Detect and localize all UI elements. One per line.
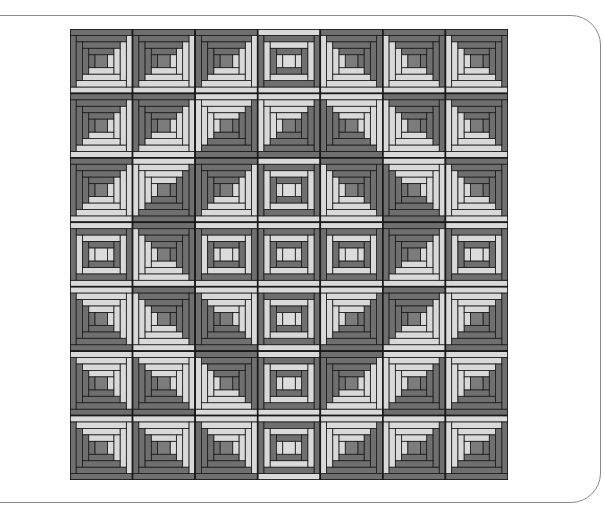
quilt-block (320, 351, 383, 415)
quilt-block (70, 158, 133, 222)
quilt-block (133, 222, 196, 286)
quilt-block (383, 222, 446, 286)
quilt-block (70, 93, 133, 157)
quilt-block (70, 351, 133, 415)
quilt-block (195, 416, 258, 480)
quilt-block (70, 29, 133, 93)
quilt-block (383, 93, 446, 157)
quilt-block (383, 351, 446, 415)
quilt-block (133, 29, 196, 93)
quilt-block (383, 416, 446, 480)
quilt-grid (70, 29, 508, 480)
quilt-block (383, 29, 446, 93)
quilt-block (195, 287, 258, 351)
quilt-block (70, 287, 133, 351)
quilt-block (133, 93, 196, 157)
quilt-block (70, 222, 133, 286)
quilt-block (445, 351, 508, 415)
quilt-block (133, 158, 196, 222)
quilt-block (70, 416, 133, 480)
quilt-svg (70, 29, 508, 480)
quilt-block (320, 93, 383, 157)
quilt-block (445, 93, 508, 157)
quilt-block (195, 93, 258, 157)
quilt-block (195, 29, 258, 93)
quilt-block (445, 29, 508, 93)
quilt-block (133, 351, 196, 415)
quilt-block (445, 287, 508, 351)
quilt-block (445, 158, 508, 222)
quilt-block (445, 416, 508, 480)
quilt-block (320, 29, 383, 93)
quilt-block (195, 351, 258, 415)
quilt-block (195, 222, 258, 286)
quilt-block (258, 351, 321, 415)
quilt-block (320, 158, 383, 222)
quilt-block (258, 287, 321, 351)
quilt-block (258, 93, 321, 157)
quilt-block (445, 222, 508, 286)
quilt-block (320, 416, 383, 480)
quilt-block (258, 222, 321, 286)
quilt-block (258, 158, 321, 222)
quilt-block (258, 416, 321, 480)
quilt-block (133, 287, 196, 351)
quilt-block (133, 416, 196, 480)
quilt-block (195, 158, 258, 222)
quilt-block (383, 158, 446, 222)
quilt-block (320, 222, 383, 286)
quilt-block (320, 287, 383, 351)
quilt-block (383, 287, 446, 351)
quilt-block (258, 29, 321, 93)
